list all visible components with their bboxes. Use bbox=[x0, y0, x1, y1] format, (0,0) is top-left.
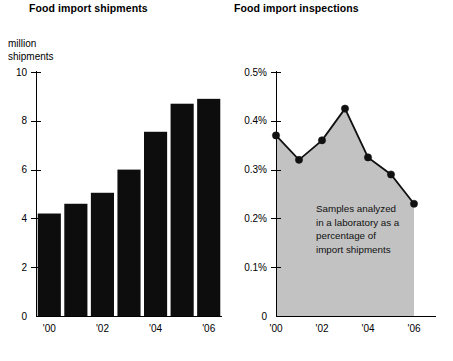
x-tick-label: '02 bbox=[96, 323, 109, 334]
x-tick-label: '06 bbox=[202, 323, 215, 334]
data-point-03[interactable] bbox=[341, 105, 348, 112]
x-tick-label: '00 bbox=[43, 323, 56, 334]
bar-chart-svg: 0246810'00'02'04'06 bbox=[36, 72, 222, 317]
y-tick-label: 2 bbox=[21, 262, 27, 273]
y-tick-label: 0 bbox=[21, 311, 27, 322]
bar-00[interactable] bbox=[38, 214, 61, 316]
y-tick-label: 0.2% bbox=[244, 213, 267, 224]
bar-03[interactable] bbox=[117, 170, 140, 316]
bar-04[interactable] bbox=[144, 132, 167, 316]
annotation-line: import shipments bbox=[316, 244, 391, 255]
x-tick-label: '02 bbox=[315, 323, 328, 334]
annotation-line: percentage of bbox=[316, 230, 376, 241]
panel-food-import-shipments: Food import shipments million shipments … bbox=[0, 0, 230, 361]
data-point-01[interactable] bbox=[295, 156, 302, 163]
bar-01[interactable] bbox=[64, 204, 87, 316]
data-point-04[interactable] bbox=[364, 154, 371, 161]
annotation-line: Samples analyzed bbox=[316, 203, 396, 214]
y-tick-label: 10 bbox=[16, 67, 28, 78]
chart-shipments: 0246810'00'02'04'06 bbox=[36, 72, 222, 317]
y-tick-label: 8 bbox=[21, 115, 27, 126]
bar-06[interactable] bbox=[197, 99, 220, 316]
data-point-00[interactable] bbox=[272, 132, 279, 139]
data-point-02[interactable] bbox=[318, 137, 325, 144]
page-title-inspections: Food import inspections bbox=[234, 2, 359, 14]
annotation-line: in a laboratory as a bbox=[316, 217, 400, 228]
x-tick-label: '00 bbox=[269, 323, 282, 334]
x-tick-label: '04 bbox=[361, 323, 374, 334]
y-tick-label: 6 bbox=[21, 164, 27, 175]
y-tick-label: 0.4% bbox=[244, 115, 267, 126]
page-title-shipments: Food import shipments bbox=[29, 2, 148, 14]
y-tick-label: 0.3% bbox=[244, 164, 267, 175]
y-axis-unit-label-shipments: million shipments bbox=[8, 38, 78, 63]
bar-05[interactable] bbox=[171, 104, 194, 316]
data-point-05[interactable] bbox=[387, 171, 394, 178]
panel-food-import-inspections: Food import inspections 00.1%0.2%0.3%0.4… bbox=[230, 0, 453, 361]
y-tick-label: 0.1% bbox=[244, 262, 267, 273]
chart-inspections: 00.1%0.2%0.3%0.4%0.5%'00'02'04'06Samples… bbox=[276, 72, 436, 317]
y-tick-label: 0.5% bbox=[244, 67, 267, 78]
y-tick-label: 0 bbox=[261, 311, 267, 322]
y-tick-label: 4 bbox=[21, 213, 27, 224]
x-tick-label: '06 bbox=[407, 323, 420, 334]
x-tick-label: '04 bbox=[149, 323, 162, 334]
area-chart-svg: 00.1%0.2%0.3%0.4%0.5%'00'02'04'06Samples… bbox=[276, 72, 436, 317]
bar-02[interactable] bbox=[91, 193, 114, 316]
data-point-06[interactable] bbox=[410, 200, 417, 207]
